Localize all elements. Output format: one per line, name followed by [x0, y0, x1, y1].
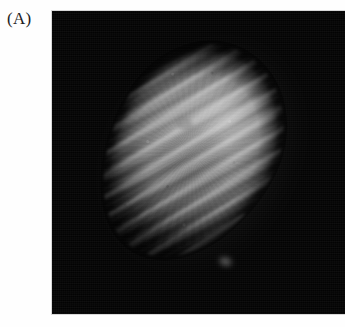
- micrograph-panel: [52, 11, 345, 314]
- figure-root: (A): [0, 0, 345, 327]
- specimen: [73, 24, 309, 280]
- panel-label: (A): [7, 9, 32, 29]
